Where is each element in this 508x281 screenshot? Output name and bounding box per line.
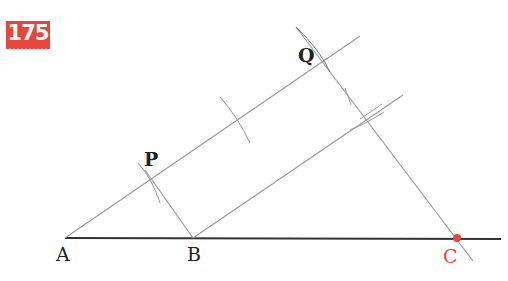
construction-diagram <box>0 0 508 281</box>
line-pb <box>145 170 193 238</box>
line-qc <box>296 27 473 261</box>
label-c: C <box>443 245 458 267</box>
baseline-ac <box>65 238 501 239</box>
label-a: A <box>56 243 70 265</box>
arc-mid <box>220 97 250 143</box>
parallel-line-b <box>193 95 403 238</box>
label-q: Q <box>298 44 315 66</box>
point-c-dot <box>453 234 461 242</box>
label-b: B <box>187 243 201 265</box>
ray-aq <box>65 36 360 238</box>
label-p: P <box>144 148 158 170</box>
arc-intersect-1 <box>345 88 351 105</box>
